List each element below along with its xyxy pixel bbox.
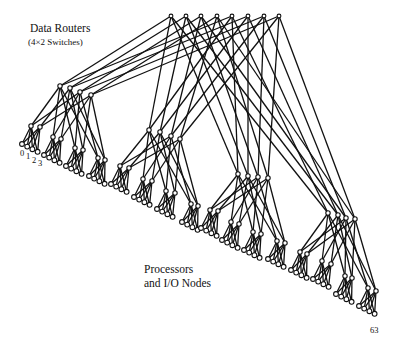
processor-node — [326, 284, 331, 289]
mid-router-node — [336, 213, 340, 217]
processor-node — [165, 212, 170, 217]
top-router-node — [184, 14, 188, 18]
processor-node — [252, 253, 257, 258]
mid-router-node — [68, 86, 72, 90]
low-router-node — [173, 191, 177, 195]
processor-node — [180, 220, 185, 225]
nodes-label-line1: Processors — [144, 263, 193, 276]
processor-node — [124, 189, 129, 194]
mid-router-node — [353, 217, 357, 221]
processor-node — [119, 187, 124, 192]
low-router-node — [59, 137, 63, 141]
processor-node — [155, 207, 160, 212]
processor-node — [334, 292, 339, 297]
mid-router-node — [89, 93, 93, 97]
processor-node — [339, 294, 344, 299]
processor-node — [209, 231, 214, 236]
processor-node — [220, 238, 225, 243]
mid-router-node — [58, 84, 62, 88]
processor-node — [344, 297, 349, 302]
processor-node — [30, 147, 35, 152]
processor-node — [102, 181, 107, 186]
processor-node — [349, 299, 354, 304]
low-router-node — [298, 250, 302, 254]
processor-node — [367, 309, 372, 314]
low-router-node — [196, 204, 200, 208]
processor-node — [235, 245, 240, 250]
processor-node — [47, 155, 52, 160]
low-router-node — [259, 232, 263, 236]
processor-node — [160, 209, 165, 214]
low-router-node — [150, 179, 154, 183]
processor-node — [316, 279, 321, 284]
processor-node — [321, 282, 326, 287]
processor-node — [20, 142, 25, 147]
low-router-node — [208, 208, 212, 212]
processor-node — [242, 248, 247, 253]
mid-router-node — [78, 90, 82, 94]
processor-node — [281, 264, 286, 269]
processor-node — [137, 197, 142, 202]
low-router-node — [283, 241, 287, 245]
processor-node — [357, 304, 362, 309]
top-router-node — [169, 14, 173, 18]
processor-node — [299, 273, 304, 278]
processor-node — [114, 184, 119, 189]
low-router-node — [189, 202, 193, 206]
processor-node — [225, 240, 230, 245]
processor-node — [97, 179, 102, 184]
processor-node — [142, 200, 147, 205]
low-router-node — [118, 164, 122, 168]
processor-node — [185, 222, 190, 227]
mid-router-node — [344, 216, 348, 220]
leaf-label-63: 63 — [370, 325, 379, 335]
low-router-node — [216, 209, 220, 213]
processor-node — [35, 149, 40, 154]
low-router-node — [141, 177, 145, 181]
processor-node — [147, 202, 152, 207]
processor-node — [247, 250, 252, 255]
low-router-node — [73, 146, 77, 150]
processor-node — [69, 166, 74, 171]
low-router-node — [237, 222, 241, 226]
low-router-node — [275, 239, 279, 243]
processor-node — [42, 153, 47, 158]
processor-node — [190, 225, 195, 230]
processor-node — [362, 306, 367, 311]
low-router-node — [127, 166, 131, 170]
low-router-node — [164, 189, 168, 193]
processor-node — [214, 233, 219, 238]
low-router-node — [366, 286, 370, 290]
processor-node — [294, 270, 299, 275]
processor-node — [204, 228, 209, 233]
low-router-node — [305, 252, 309, 256]
low-router-node — [350, 276, 354, 280]
top-router-node — [262, 14, 266, 18]
leaf-label-3: 3 — [38, 158, 42, 168]
processor-node — [266, 257, 271, 262]
low-router-node — [229, 220, 233, 224]
mid-router-node — [178, 137, 182, 141]
mid-router-node — [246, 174, 250, 178]
connection-lines — [22, 16, 376, 314]
low-router-node — [51, 135, 55, 139]
mid-router-node — [147, 128, 151, 132]
top-router-node — [230, 14, 234, 18]
low-router-node — [343, 274, 347, 278]
mid-router-node — [326, 211, 330, 215]
mid-router-node — [169, 134, 173, 138]
processor-node — [74, 169, 79, 174]
processor-node — [271, 259, 276, 264]
processor-node — [109, 182, 114, 187]
processor-node — [57, 160, 62, 165]
low-router-node — [29, 124, 33, 128]
mid-router-node — [236, 172, 240, 176]
top-router-node — [277, 14, 281, 18]
processor-node — [25, 144, 30, 149]
low-router-node — [329, 262, 333, 266]
leaf-label-0: 0 — [20, 148, 24, 158]
low-router-node — [251, 230, 255, 234]
processor-node — [170, 214, 175, 219]
fat-tree-diagram — [0, 0, 400, 346]
low-router-node — [374, 289, 378, 293]
